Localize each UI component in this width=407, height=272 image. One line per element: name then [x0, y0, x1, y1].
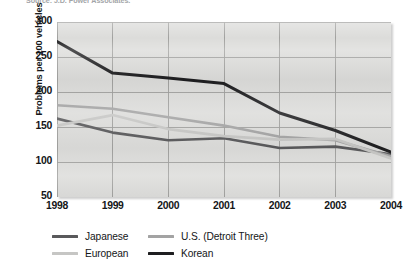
x-axis-tick-labels: 1998199920002001200220032004 — [0, 200, 399, 218]
legend-item-u-s-detroit-three[interactable]: U.S. (Detroit Three) — [148, 231, 268, 242]
x-tick-label: 2003 — [311, 200, 359, 211]
legend-item-korean[interactable]: Korean — [148, 248, 213, 259]
y-tick-label: 300 — [22, 15, 52, 26]
legend-label: European — [85, 248, 128, 259]
y-tick-label: 200 — [22, 85, 52, 96]
legend-label: Korean — [181, 248, 213, 259]
x-tick-label: 2002 — [256, 200, 304, 211]
x-tick-label: 2004 — [367, 200, 407, 211]
x-tick-label: 1998 — [33, 200, 81, 211]
legend-swatch-icon — [148, 252, 174, 255]
legend-swatch-icon — [52, 252, 78, 255]
y-tick-label: 150 — [22, 120, 52, 131]
x-tick-label: 2001 — [200, 200, 248, 211]
legend-swatch-icon — [52, 235, 78, 238]
legend-row: JapaneseU.S. (Detroit Three) — [52, 228, 382, 245]
plot-area — [57, 22, 391, 197]
legend-item-japanese[interactable]: Japanese — [52, 231, 148, 242]
y-axis-tick-labels: 30025020015010050 — [18, 0, 52, 272]
y-tick-label: 250 — [22, 50, 52, 61]
legend-label: Japanese — [85, 231, 128, 242]
x-tick-label: 1999 — [89, 200, 137, 211]
legend-swatch-icon — [148, 235, 174, 238]
x-tick-label: 2000 — [144, 200, 192, 211]
legend-row: EuropeanKorean — [52, 245, 382, 262]
legend-label: U.S. (Detroit Three) — [181, 231, 268, 242]
y-tick-label: 100 — [22, 155, 52, 166]
chart-legend: JapaneseU.S. (Detroit Three)EuropeanKore… — [52, 228, 382, 262]
legend-item-european[interactable]: European — [52, 248, 148, 259]
plot-svg — [57, 22, 391, 197]
